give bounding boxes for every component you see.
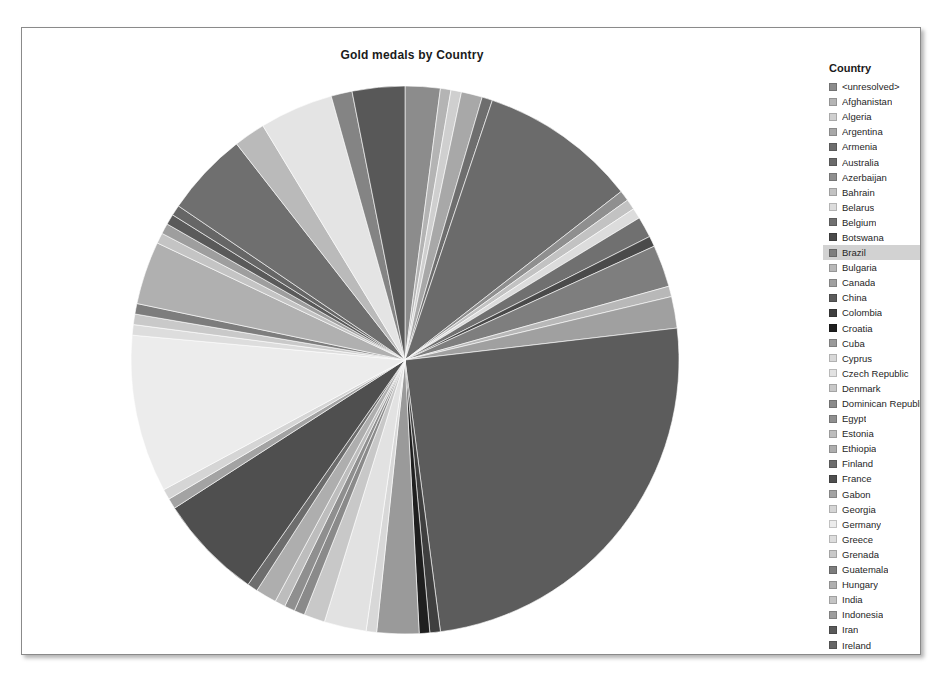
legend-item-armenia[interactable]: Armenia [823,139,921,154]
legend-item-france[interactable]: France [823,471,921,486]
pie-slice[interactable] [405,328,679,632]
legend-swatch-icon [829,339,837,347]
legend-item-germany[interactable]: Germany [823,517,921,532]
legend-item-guatemala[interactable]: Guatemala [823,562,921,577]
legend-swatch-icon [829,83,837,91]
legend-item-label: Colombia [842,307,882,318]
legend-item-cuba[interactable]: Cuba [823,336,921,351]
legend-item-label: Cuba [842,338,865,349]
legend-item-australia[interactable]: Australia [823,154,921,169]
legend-item-estonia[interactable]: Estonia [823,426,921,441]
legend-item-label: Azerbaijan [842,172,887,183]
legend-item-label: Canada [842,277,875,288]
legend-item-egypt[interactable]: Egypt [823,411,921,426]
legend-item-grenada[interactable]: Grenada [823,547,921,562]
legend-swatch-icon [829,128,837,136]
legend-title: Country [823,59,921,79]
pie-chart[interactable] [129,84,681,636]
legend-item-cyprus[interactable]: Cyprus [823,351,921,366]
legend-item-finland[interactable]: Finland [823,456,921,471]
legend-item-hungary[interactable]: Hungary [823,577,921,592]
legend-item-label: Afghanistan [842,96,892,107]
legend-swatch-icon [829,400,837,408]
legend-swatch-icon [829,581,837,589]
legend-item-label: Botswana [842,232,884,243]
legend-item-afghanistan[interactable]: Afghanistan [823,94,921,109]
legend-swatch-icon [829,384,837,392]
legend-list[interactable]: <unresolved>AfghanistanAlgeriaArgentinaA… [823,79,921,655]
legend-swatch-icon [829,98,837,106]
legend-item-ethiopia[interactable]: Ethiopia [823,441,921,456]
legend-item-croatia[interactable]: Croatia [823,321,921,336]
legend-item-ireland[interactable]: Ireland [823,637,921,652]
legend-item-unresolved[interactable]: <unresolved> [823,79,921,94]
legend-item-italy[interactable]: Italy [823,653,921,655]
legend-item-belarus[interactable]: Belarus [823,200,921,215]
legend-swatch-icon [829,233,837,241]
legend-item-gabon[interactable]: Gabon [823,487,921,502]
legend-swatch-icon [829,354,837,362]
legend-item-argentina[interactable]: Argentina [823,124,921,139]
legend-item-belgium[interactable]: Belgium [823,215,921,230]
legend-item-label: Ireland [842,640,871,651]
legend-item-label: Egypt [842,413,866,424]
legend-swatch-icon [829,415,837,423]
legend-item-canada[interactable]: Canada [823,275,921,290]
legend-item-georgia[interactable]: Georgia [823,502,921,517]
legend-swatch-icon [829,294,837,302]
legend-item-botswana[interactable]: Botswana [823,230,921,245]
legend-swatch-icon [829,596,837,604]
legend-item-greece[interactable]: Greece [823,532,921,547]
legend-swatch-icon [829,324,837,332]
legend-swatch-icon [829,264,837,272]
legend-swatch-icon [829,218,837,226]
legend-item-china[interactable]: China [823,290,921,305]
legend-item-algeria[interactable]: Algeria [823,109,921,124]
legend-swatch-icon [829,279,837,287]
legend-swatch-icon [829,309,837,317]
legend-item-label: Cyprus [842,353,872,364]
legend-item-label: Germany [842,519,881,530]
legend-swatch-icon [829,173,837,181]
plot-area [22,60,812,650]
legend-item-colombia[interactable]: Colombia [823,305,921,320]
legend-item-iran[interactable]: Iran [823,622,921,637]
legend-panel[interactable]: Country <unresolved>AfghanistanAlgeriaAr… [823,59,921,655]
legend-item-indonesia[interactable]: Indonesia [823,607,921,622]
legend-item-label: Guatemala [842,564,888,575]
legend-swatch-icon [829,475,837,483]
legend-swatch-icon [829,550,837,558]
legend-item-label: Bulgaria [842,262,877,273]
legend-item-label: Argentina [842,126,883,137]
legend-item-label: Armenia [842,141,877,152]
legend-item-label: Estonia [842,428,874,439]
legend-swatch-icon [829,505,837,513]
legend-item-czech-republic[interactable]: Czech Republic [823,366,921,381]
legend-item-label: Iran [842,624,858,635]
legend-item-india[interactable]: India [823,592,921,607]
legend-swatch-icon [829,188,837,196]
legend-item-label: Hungary [842,579,878,590]
legend-swatch-icon [829,113,837,121]
legend-item-label: France [842,473,872,484]
legend-item-label: Czech Republic [842,368,909,379]
legend-item-label: Greece [842,534,873,545]
legend-swatch-icon [829,249,837,257]
legend-item-brazil[interactable]: Brazil [823,245,921,260]
legend-item-denmark[interactable]: Denmark [823,381,921,396]
legend-item-label: Denmark [842,383,881,394]
legend-swatch-icon [829,626,837,634]
legend-item-label: Indonesia [842,609,883,620]
legend-swatch-icon [829,203,837,211]
legend-item-label: Ethiopia [842,443,876,454]
legend-item-label: Gabon [842,489,871,500]
legend-item-azerbaijan[interactable]: Azerbaijan [823,170,921,185]
legend-item-label: Georgia [842,504,876,515]
legend-item-dominican-republic[interactable]: Dominican Republic [823,396,921,411]
legend-item-bulgaria[interactable]: Bulgaria [823,260,921,275]
legend-swatch-icon [829,535,837,543]
legend-item-bahrain[interactable]: Bahrain [823,185,921,200]
legend-swatch-icon [829,460,837,468]
pie-slice-group[interactable] [131,86,679,634]
legend-item-label: Australia [842,157,879,168]
